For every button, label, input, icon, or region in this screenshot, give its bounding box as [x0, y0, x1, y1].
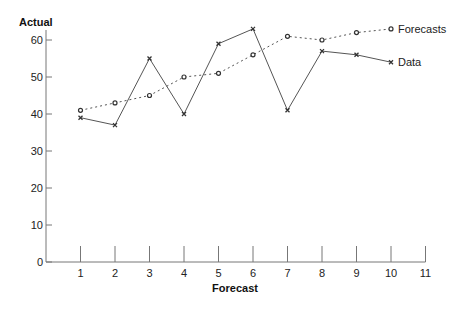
data-point-marker: [251, 53, 255, 57]
series-label-data: Data: [398, 56, 422, 68]
data-point-marker: [148, 57, 152, 61]
x-tick-label: 2: [112, 267, 118, 279]
y-tick-label: 30: [31, 145, 43, 157]
series-group: ForecastsData: [79, 23, 447, 127]
series-forecasts: Forecasts: [79, 23, 447, 112]
series-label-forecasts: Forecasts: [398, 23, 447, 35]
line-chart: Actual 0102030405060 1234567891011 Forec…: [0, 0, 453, 309]
y-axis-title: Actual: [19, 16, 53, 28]
data-point-marker: [79, 108, 83, 112]
x-tick-label: 10: [385, 267, 397, 279]
data-point-marker: [286, 108, 290, 112]
data-point-marker: [182, 112, 186, 116]
y-tick-label: 10: [31, 219, 43, 231]
data-point-marker: [286, 34, 290, 38]
series-line: [81, 29, 392, 125]
x-tick-label: 3: [146, 267, 152, 279]
data-point-marker: [389, 27, 393, 31]
data-point-marker: [148, 94, 152, 98]
y-tick-label: 50: [31, 71, 43, 83]
y-tick-label: 20: [31, 182, 43, 194]
data-point-marker: [217, 71, 221, 75]
x-tick-label: 9: [353, 267, 359, 279]
x-tick-label: 11: [420, 267, 431, 279]
data-point-marker: [113, 101, 117, 105]
y-tick-label: 40: [31, 108, 43, 120]
x-tick-label: 4: [181, 267, 187, 279]
series-data: Data: [79, 27, 423, 127]
x-axis-title: Forecast: [212, 282, 258, 294]
series-line: [81, 29, 392, 110]
data-point-marker: [182, 75, 186, 79]
x-tick-label: 5: [215, 267, 221, 279]
y-tick-label: 60: [31, 34, 43, 46]
data-point-marker: [320, 38, 324, 42]
x-tick-label: 6: [250, 267, 256, 279]
data-point-marker: [251, 27, 255, 31]
y-tick-label: 0: [37, 256, 43, 268]
x-tick-label: 7: [284, 267, 290, 279]
data-point-marker: [355, 31, 359, 35]
x-tick-label: 8: [319, 267, 325, 279]
y-axis-ticks: 0102030405060: [31, 34, 52, 268]
x-tick-label: 1: [77, 267, 83, 279]
axes: [46, 30, 426, 262]
data-point-marker: [217, 42, 221, 46]
